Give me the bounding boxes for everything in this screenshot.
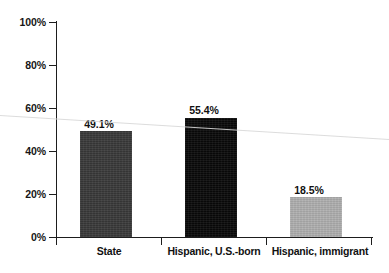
y-axis-tick-mark-60: [49, 108, 56, 109]
data-label-state: 49.1%: [54, 118, 144, 130]
bar-texture-hispanic-immigrant: [290, 197, 342, 237]
x-axis-category-label-state: State: [54, 245, 164, 257]
y-axis-tick-mark-100: [49, 22, 56, 23]
x-axis-tick-mark-2: [266, 238, 267, 245]
x-axis-line: [56, 237, 373, 238]
x-axis-tick-mark-1: [161, 238, 162, 245]
y-axis-tick-label-80: 80%: [0, 59, 46, 71]
y-axis-tick-mark-80: [49, 65, 56, 66]
bar-texture-state: [80, 131, 132, 237]
x-axis-tick-mark-left: [56, 238, 57, 245]
y-axis-tick-mark-20: [49, 194, 56, 195]
x-axis-tick-mark-right: [371, 238, 372, 245]
data-label-hispanic-immigrant: 18.5%: [264, 184, 354, 196]
bar-chart: 100% 80% 60% 40% 20% 0% 49.1% 55.4% 18.5…: [0, 0, 389, 273]
bar-hispanic-us-born: [185, 118, 237, 237]
bar-state: [80, 131, 132, 237]
y-axis-tick-mark-40: [49, 151, 56, 152]
bar-hispanic-immigrant: [290, 197, 342, 237]
y-axis-tick-label-20: 20%: [0, 188, 46, 200]
y-axis-tick-label-40: 40%: [0, 145, 46, 157]
y-axis-tick-label-100: 100%: [0, 16, 46, 28]
data-label-hispanic-us-born: 55.4%: [159, 104, 249, 116]
y-axis-tick-label-0: 0%: [0, 231, 46, 243]
bar-texture-hispanic-us-born: [185, 118, 237, 237]
x-axis-category-label-hispanic-immigrant: Hispanic, immigrant: [264, 245, 376, 257]
y-axis-tick-mark-0: [49, 237, 56, 238]
y-axis-tick-label-60: 60%: [0, 102, 46, 114]
x-axis-category-label-hispanic-us-born: Hispanic, U.S.-born: [159, 245, 269, 257]
